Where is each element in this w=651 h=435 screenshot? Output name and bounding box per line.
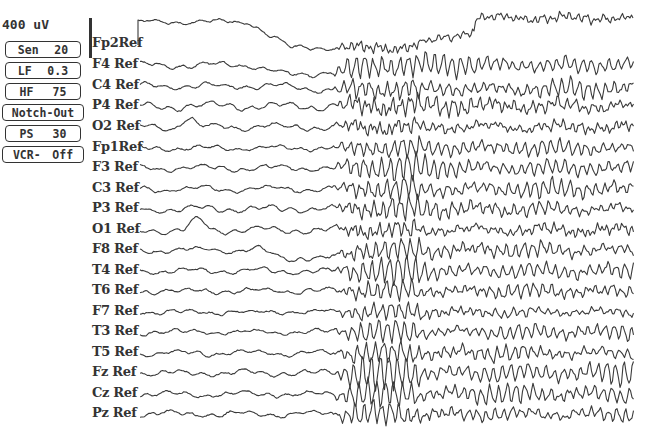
eeg-trace-o1ref: [140, 217, 634, 240]
eeg-trace-f7ref: [140, 302, 634, 321]
eeg-trace-fp1ref: [140, 136, 634, 159]
eeg-trace-t5ref: [140, 341, 634, 364]
eeg-trace-p3ref: [140, 194, 634, 221]
eeg-trace-t3ref: [140, 320, 634, 343]
eeg-trace-t6ref: [140, 278, 634, 301]
eeg-trace-f8ref: [140, 237, 634, 261]
eeg-trace-c3ref: [140, 175, 634, 202]
eeg-trace-p4ref: [140, 92, 634, 118]
eeg-trace-f3ref: [140, 151, 634, 181]
eeg-trace-t4ref: [140, 255, 634, 285]
eeg-trace-area: [0, 0, 651, 435]
eeg-trace-f4ref: [140, 52, 634, 80]
eeg-trace-pzref: [140, 400, 634, 426]
eeg-trace-fp2ref: [138, 11, 633, 53]
eeg-trace-o2ref: [140, 117, 634, 136]
eeg-trace-c4ref: [140, 76, 634, 101]
